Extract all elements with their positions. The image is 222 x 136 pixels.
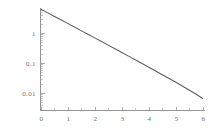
axes-group bbox=[41, 8, 206, 111]
data-series-group bbox=[41, 9, 204, 99]
x-tick-label: 5 bbox=[175, 115, 179, 123]
x-tick-label: 1 bbox=[67, 115, 71, 123]
y-tick-label: 0.1 bbox=[26, 60, 36, 68]
y-tick-label: 0.01 bbox=[22, 90, 36, 98]
x-tick-label: 2 bbox=[94, 115, 98, 123]
x-tick-group bbox=[42, 107, 204, 111]
data-curve bbox=[41, 9, 204, 99]
y-tick-label-group: 10.10.01 bbox=[22, 30, 36, 98]
x-tick-label: 4 bbox=[148, 115, 152, 123]
y-tick-label: 1 bbox=[32, 30, 36, 38]
plot-canvas: 0123456 10.10.01 bbox=[0, 0, 222, 136]
log-plot-figure: 0123456 10.10.01 bbox=[0, 0, 222, 136]
x-tick-label: 3 bbox=[121, 115, 125, 123]
x-tick-label: 0 bbox=[40, 115, 44, 123]
x-tick-label: 6 bbox=[202, 115, 206, 123]
y-tick-group bbox=[41, 11, 45, 106]
x-tick-label-group: 0123456 bbox=[40, 115, 206, 123]
